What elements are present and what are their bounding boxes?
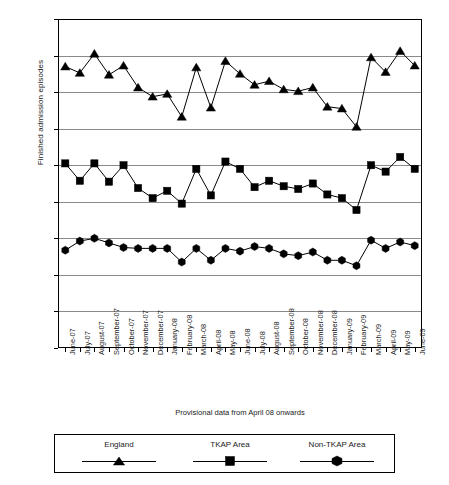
data-point-square-marker: [236, 165, 243, 172]
data-point-square-marker: [382, 168, 389, 175]
data-point-hexagon-marker: [164, 244, 171, 252]
data-point-hexagon-marker: [62, 246, 69, 254]
data-point-triangle-marker: [133, 83, 142, 91]
data-point-square-marker: [251, 184, 258, 191]
data-point-square-marker: [280, 183, 287, 190]
data-point-square-marker: [295, 185, 302, 192]
data-point-triangle-marker: [396, 47, 405, 55]
series-non-tkap-area: [62, 234, 418, 269]
data-point-hexagon-marker: [237, 247, 244, 255]
data-point-square-marker: [397, 153, 404, 160]
data-point-hexagon-marker: [106, 239, 113, 247]
data-point-triangle-marker: [323, 103, 332, 111]
series-line: [65, 51, 414, 127]
series-line: [65, 157, 414, 210]
data-point-hexagon-marker: [295, 252, 302, 260]
data-point-square-marker: [120, 162, 127, 169]
data-point-hexagon-marker: [193, 244, 200, 252]
data-point-hexagon-marker: [222, 244, 229, 252]
data-point-square-marker: [353, 206, 360, 213]
data-point-hexagon-marker: [76, 237, 83, 245]
data-point-hexagon-marker: [207, 256, 214, 264]
data-point-hexagon-marker: [368, 236, 375, 244]
data-point-hexagon-marker: [266, 244, 273, 252]
data-point-hexagon-marker: [178, 258, 185, 266]
data-point-triangle-marker: [90, 50, 99, 58]
data-point-hexagon-marker: [324, 256, 331, 264]
data-point-square-marker: [222, 158, 229, 165]
data-point-hexagon-marker: [338, 256, 345, 264]
data-point-square-marker: [164, 187, 171, 194]
data-point-hexagon-marker: [91, 234, 98, 242]
series-layer: [0, 0, 449, 485]
data-point-hexagon-marker: [120, 243, 127, 251]
data-point-square-marker: [62, 160, 69, 167]
data-point-triangle-marker: [163, 90, 172, 98]
data-point-square-marker: [76, 177, 83, 184]
data-point-triangle-marker: [61, 62, 70, 70]
data-point-square-marker: [91, 160, 98, 167]
data-point-hexagon-marker: [149, 244, 156, 252]
data-point-triangle-marker: [352, 123, 361, 131]
data-point-square-marker: [149, 195, 156, 202]
data-point-hexagon-marker: [135, 244, 142, 252]
data-point-square-marker: [134, 184, 141, 191]
data-point-hexagon-marker: [280, 250, 287, 258]
data-point-triangle-marker: [265, 77, 274, 85]
data-point-triangle-marker: [279, 85, 288, 93]
data-point-square-marker: [207, 192, 214, 199]
data-point-triangle-marker: [366, 53, 375, 61]
line-chart: Finished admission episodes 020040060080…: [0, 0, 449, 485]
data-point-triangle-marker: [119, 61, 128, 69]
series-england: [61, 47, 420, 130]
data-point-triangle-marker: [221, 57, 230, 65]
data-point-hexagon-marker: [309, 248, 316, 256]
series-tkap-area: [62, 153, 419, 213]
data-point-triangle-marker: [75, 69, 84, 77]
data-point-square-marker: [266, 177, 273, 184]
data-point-triangle-marker: [192, 63, 201, 71]
data-point-triangle-marker: [308, 83, 317, 91]
data-point-hexagon-marker: [397, 238, 404, 246]
data-point-square-marker: [367, 162, 374, 169]
data-point-triangle-marker: [177, 113, 186, 121]
data-point-square-marker: [338, 195, 345, 202]
data-point-square-marker: [411, 165, 418, 172]
data-point-hexagon-marker: [411, 242, 418, 250]
data-point-square-marker: [324, 191, 331, 198]
data-point-square-marker: [193, 165, 200, 172]
data-point-triangle-marker: [206, 103, 215, 111]
data-point-hexagon-marker: [251, 243, 258, 251]
data-point-square-marker: [105, 178, 112, 185]
data-point-hexagon-marker: [382, 244, 389, 252]
data-point-triangle-marker: [104, 71, 113, 79]
data-point-square-marker: [309, 180, 316, 187]
data-point-hexagon-marker: [353, 262, 360, 270]
data-point-square-marker: [178, 200, 185, 207]
